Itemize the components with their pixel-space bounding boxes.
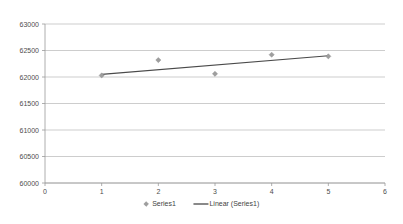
scatter-chart: 60000605006100061500620006250063000 0123… [0,0,403,224]
legend-label: Series1 [152,200,176,207]
x-axis-tick-label: 4 [270,188,274,195]
chart-canvas: 60000605006100061500620006250063000 0123… [0,0,403,224]
y-axis-tick-label: 61000 [20,127,40,134]
x-axis-tick-label: 3 [213,188,217,195]
x-axis-tick-label: 2 [156,188,160,195]
y-axis-tick-label: 60500 [20,153,40,160]
x-axis-tick-label: 1 [100,188,104,195]
y-axis-tick-label: 60000 [20,180,40,187]
x-axis-tick-label: 0 [43,188,47,195]
y-axis-tick-label: 62000 [20,74,40,81]
legend-label: Linear (Series1) [209,200,259,208]
y-axis-tick-label: 62500 [20,47,40,54]
x-axis-tick-label: 6 [383,188,387,195]
x-axis-tick-label: 5 [326,188,330,195]
y-axis-tick-label: 61500 [20,100,40,107]
y-axis-tick-label: 63000 [20,21,40,28]
chart-background [0,0,403,224]
